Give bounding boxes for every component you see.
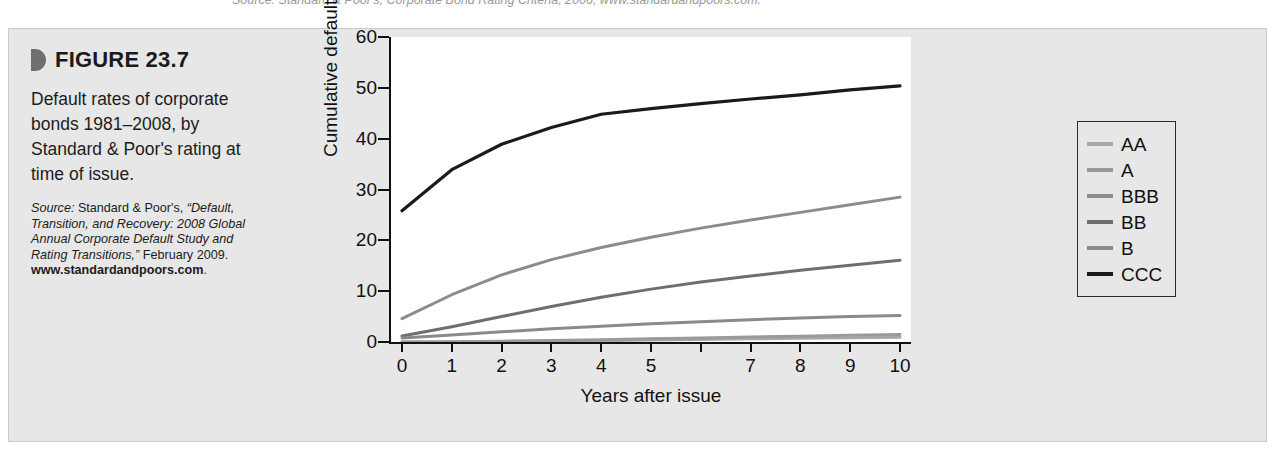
legend-label: BB: [1121, 213, 1146, 232]
y-tick-label: 40: [356, 128, 377, 150]
legend-swatch-icon: [1087, 142, 1113, 146]
chart-legend: AAABBBBBBCCC: [1077, 121, 1176, 297]
y-tick-mark: [378, 290, 389, 292]
legend-swatch-icon: [1087, 168, 1113, 172]
y-tick-label: 0: [366, 331, 377, 353]
figure-source-note: Source: Standard & Poor's, “Default, Tra…: [31, 201, 256, 279]
figure-caption-column: FIGURE 23.7 Default rates of corporate b…: [31, 47, 286, 279]
x-tick-mark: [750, 342, 752, 352]
y-tick-mark: [378, 36, 389, 38]
legend-item-aa[interactable]: AA: [1087, 131, 1162, 157]
figure-caption-text: Default rates of corporate bonds 1981–20…: [31, 87, 246, 187]
x-axis-label: Years after issue: [389, 385, 913, 407]
x-tick-mark: [650, 342, 652, 352]
half-circle-bullet-icon: [31, 49, 46, 71]
x-tick-label: 8: [795, 355, 806, 377]
plot-area: [389, 37, 911, 344]
y-tick-mark: [378, 189, 389, 191]
x-tick-mark: [799, 342, 801, 352]
y-tick-mark: [378, 138, 389, 140]
x-tick-mark: [899, 342, 901, 352]
x-tick-label: 10: [889, 355, 910, 377]
figure-number-label: FIGURE 23.7: [55, 47, 189, 73]
legend-swatch-icon: [1087, 194, 1113, 198]
x-tick-mark: [451, 342, 453, 352]
x-tick-mark: [849, 342, 851, 352]
x-tick-label: 9: [845, 355, 856, 377]
x-tick-mark: [501, 342, 503, 352]
source-label: Source:: [31, 201, 74, 215]
x-tick-label: 0: [397, 355, 408, 377]
legend-swatch-icon: [1087, 272, 1113, 276]
legend-swatch-icon: [1087, 220, 1113, 224]
clipped-source-text: Source: Standard & Poor's, Corporate Bon…: [232, 0, 761, 7]
legend-item-bbb[interactable]: BBB: [1087, 183, 1162, 209]
legend-swatch-icon: [1087, 246, 1113, 250]
y-tick-label: 50: [356, 77, 377, 99]
x-tick-label: 2: [496, 355, 507, 377]
legend-label: AA: [1121, 135, 1146, 154]
legend-label: BBB: [1121, 187, 1159, 206]
x-tick-mark: [550, 342, 552, 352]
series-line-ccc: [402, 86, 900, 211]
legend-label: B: [1121, 239, 1134, 258]
y-tick-mark: [378, 341, 389, 343]
y-tick-mark: [378, 239, 389, 241]
source-url-period: .: [203, 263, 207, 277]
y-tick-label: 10: [356, 280, 377, 302]
x-tick-label: 5: [646, 355, 657, 377]
clipped-source-line: Source: Standard & Poor's, Corporate Bon…: [0, 0, 1283, 10]
x-tick-label: 3: [546, 355, 557, 377]
figure-panel: FIGURE 23.7 Default rates of corporate b…: [8, 28, 1267, 442]
source-publisher: Standard & Poor's,: [74, 201, 186, 215]
source-date: February 2009.: [139, 248, 228, 262]
series-line-bbb: [402, 197, 900, 318]
plot-lines: [391, 37, 911, 342]
x-tick-label: 7: [745, 355, 756, 377]
figure-heading: FIGURE 23.7: [31, 47, 286, 73]
x-tick-mark: [600, 342, 602, 352]
y-axis-ticks: 0102030405060: [343, 37, 389, 362]
legend-item-bb[interactable]: BB: [1087, 209, 1162, 235]
y-tick-label: 20: [356, 229, 377, 251]
x-tick-label: 1: [447, 355, 458, 377]
y-tick-mark: [378, 87, 389, 89]
source-url-link[interactable]: www.standardandpoors.com: [31, 263, 203, 277]
y-tick-label: 30: [356, 179, 377, 201]
chart: Cumulative default rate, % 0102030405060…: [329, 37, 1049, 437]
x-tick-label: 4: [596, 355, 607, 377]
legend-item-b[interactable]: B: [1087, 235, 1162, 261]
y-axis-label: Cumulative default rate, %: [320, 0, 342, 157]
y-tick-label: 60: [356, 26, 377, 48]
x-tick-mark: [401, 342, 403, 352]
legend-item-ccc[interactable]: CCC: [1087, 261, 1162, 287]
x-tick-mark: [700, 342, 702, 352]
legend-item-a[interactable]: A: [1087, 157, 1162, 183]
legend-label: A: [1121, 161, 1134, 180]
legend-label: CCC: [1121, 265, 1162, 284]
